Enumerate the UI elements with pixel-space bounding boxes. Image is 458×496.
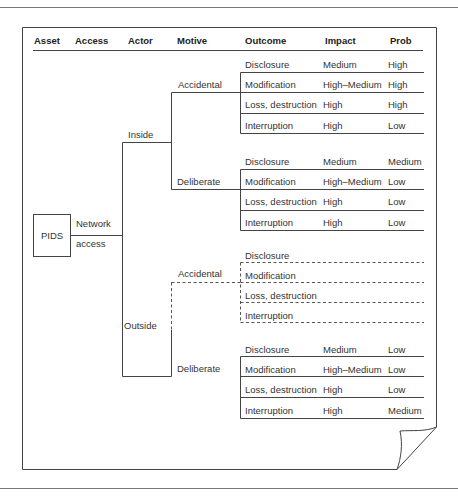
impact-cell: Medium: [323, 344, 357, 355]
prob-cell: High: [388, 59, 408, 70]
outcome-cell: Loss, destruction: [245, 384, 317, 395]
prob-cell: High: [388, 79, 408, 90]
impact-cell: High: [323, 405, 343, 416]
impact-cell: High: [323, 196, 343, 207]
header-asset: Asset: [34, 35, 60, 46]
outcome-cell: Disclosure: [245, 344, 289, 355]
impact-cell: Medium: [323, 156, 357, 167]
prob-cell: Low: [388, 176, 405, 187]
actor-outside: Outside: [124, 320, 157, 331]
outcome-cell: Interruption: [245, 405, 293, 416]
motive-outside-deliberate: Deliberate: [177, 363, 220, 374]
header-impact: Impact: [325, 35, 356, 46]
outcome-cell: Disclosure: [245, 156, 289, 167]
outcome-cell: Interruption: [245, 120, 293, 131]
header-prob: Prob: [390, 35, 412, 46]
outcome-cell: Modification: [245, 176, 296, 187]
prob-cell: Low: [388, 196, 405, 207]
outcome-cell: Loss, destruction: [245, 99, 317, 110]
header-access: Access: [75, 35, 108, 46]
impact-cell: Medium: [323, 59, 357, 70]
motive-inside-accidental: Accidental: [178, 79, 222, 90]
header-actor: Actor: [128, 35, 153, 46]
prob-cell: Medium: [388, 405, 422, 416]
outcome-cell: Modification: [245, 364, 296, 375]
impact-cell: High: [323, 384, 343, 395]
outcome-cell: Disclosure: [245, 59, 289, 70]
diagram-lines: [0, 0, 458, 496]
impact-cell: High: [323, 120, 343, 131]
header-motive: Motive: [177, 35, 207, 46]
access-line1: Network: [76, 218, 111, 229]
prob-cell: Low: [388, 364, 405, 375]
actor-inside: Inside: [128, 129, 153, 140]
outcome-cell: Loss, destruction: [245, 290, 317, 301]
motive-inside-deliberate: Deliberate: [177, 176, 220, 187]
impact-cell: High: [323, 99, 343, 110]
motive-outside-accidental: Accidental: [178, 268, 222, 279]
outcome-cell: Modification: [245, 270, 296, 281]
outcome-cell: Disclosure: [245, 250, 289, 261]
prob-cell: Low: [388, 384, 405, 395]
impact-cell: High–Medium: [323, 364, 382, 375]
outcome-cell: Loss, destruction: [245, 196, 317, 207]
header-outcome: Outcome: [245, 35, 286, 46]
outcome-cell: Interruption: [245, 310, 293, 321]
access-line2: access: [76, 238, 106, 249]
impact-cell: High: [323, 217, 343, 228]
impact-cell: High–Medium: [323, 176, 382, 187]
prob-cell: High: [388, 99, 408, 110]
prob-cell: Medium: [388, 156, 422, 167]
outcome-cell: Modification: [245, 79, 296, 90]
impact-cell: High–Medium: [323, 79, 382, 90]
prob-cell: Low: [388, 120, 405, 131]
attack-tree-diagram: Asset Access Actor Motive Outcome Impact…: [0, 0, 458, 496]
prob-cell: Low: [388, 344, 405, 355]
prob-cell: Low: [388, 217, 405, 228]
asset-label: PIDS: [41, 230, 63, 241]
outcome-cell: Interruption: [245, 217, 293, 228]
